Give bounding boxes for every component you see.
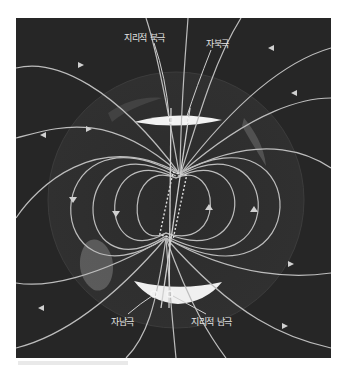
label-geographic-north-pole: 지리적 북극	[124, 31, 165, 44]
label-magnetic-south-pole: 자남극	[111, 315, 134, 328]
field-lines-graphic	[16, 18, 331, 358]
faint-caption-strip	[18, 361, 128, 365]
label-geographic-south-pole: 지리적 남극	[191, 315, 232, 328]
magnetic-field-diagram: 지리적 북극 자북극 자남극 지리적 남극	[16, 18, 331, 358]
label-magnetic-north-pole: 자북극	[206, 37, 229, 50]
